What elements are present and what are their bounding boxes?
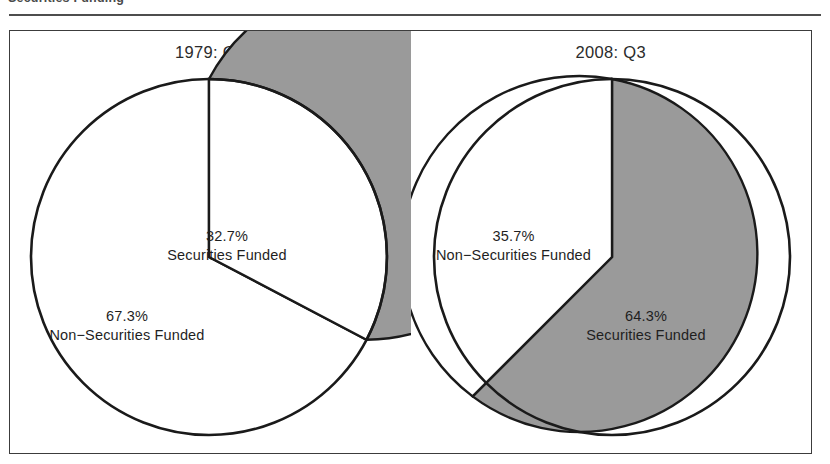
slice-pct: 67.3% xyxy=(2,307,252,326)
figure-frame: 1979: Q4 32.7% Securities Funded 67.3% N… xyxy=(9,30,812,454)
slice-name: Securities Funded xyxy=(122,246,332,265)
slice-label-right-securities: 64.3% Securities Funded xyxy=(539,307,754,345)
slice-label-left-securities: 32.7% Securities Funded xyxy=(122,227,332,265)
pie-chart-right: 35.7% Non−Securities Funded 64.3% Securi… xyxy=(411,31,812,453)
slice-name: Non−Securities Funded xyxy=(2,326,252,345)
slice-label-right-non-securities: 35.7% Non−Securities Funded xyxy=(389,227,639,265)
pie-panel-right: 2008: Q3 35.7% Non−Securities Funded 64.… xyxy=(411,31,812,453)
slice-name: Non−Securities Funded xyxy=(389,246,639,265)
slice-name: Securities Funded xyxy=(539,326,754,345)
slice-pct: 64.3% xyxy=(539,307,754,326)
slice-pct: 35.7% xyxy=(389,227,639,246)
horizontal-rule xyxy=(9,14,821,16)
pie-panel-left: 1979: Q4 32.7% Securities Funded 67.3% N… xyxy=(10,31,411,453)
slice-pct: 32.7% xyxy=(122,227,332,246)
clipped-caption: Securities Funding xyxy=(8,0,408,5)
pie-chart-left: 32.7% Securities Funded 67.3% Non−Securi… xyxy=(10,31,411,453)
slice-label-left-non-securities: 67.3% Non−Securities Funded xyxy=(2,307,252,345)
